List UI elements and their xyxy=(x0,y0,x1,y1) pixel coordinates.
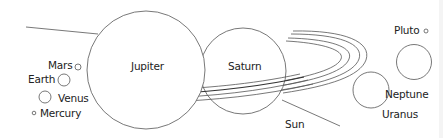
label-jupiter: Jupiter xyxy=(131,61,164,72)
label-sun: Sun xyxy=(285,119,304,130)
sun-edge-left xyxy=(26,27,98,34)
uranus-body xyxy=(353,72,389,108)
venus-body xyxy=(39,91,51,103)
label-neptune: Neptune xyxy=(385,89,428,100)
label-mercury: Mercury xyxy=(40,108,81,119)
mercury-body xyxy=(32,111,36,115)
neptune-body xyxy=(397,45,432,80)
earth-body xyxy=(58,74,70,86)
solar-system-diagram: Mars Earth Venus Mercury Jupiter Saturn … xyxy=(0,0,443,138)
label-saturn: Saturn xyxy=(228,61,261,72)
page-edge-shade xyxy=(439,0,443,138)
label-uranus: Uranus xyxy=(382,109,418,120)
label-earth: Earth xyxy=(28,74,55,85)
label-mars: Mars xyxy=(48,60,72,71)
label-pluto: Pluto xyxy=(394,25,419,36)
mars-body xyxy=(75,64,81,70)
label-venus: Venus xyxy=(58,93,89,104)
pluto-body xyxy=(424,29,428,33)
